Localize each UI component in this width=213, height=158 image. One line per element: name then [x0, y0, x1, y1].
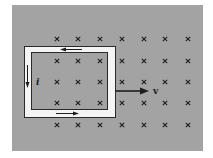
moving-loop-diagram: i v: [0, 0, 213, 158]
current-label: i: [36, 77, 40, 87]
velocity-label: v: [152, 86, 159, 96]
